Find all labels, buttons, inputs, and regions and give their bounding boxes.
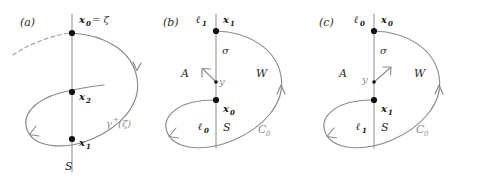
panel-b-label-A: A <box>180 67 189 80</box>
panel-c-label-S: S <box>381 121 389 134</box>
panel-a-label-x0-sub: 0 <box>86 19 91 28</box>
panel-a-label-x2: x <box>78 91 86 102</box>
panel-b-label-x1-sub: 1 <box>230 19 235 28</box>
panel-c-node-x0 <box>371 28 377 34</box>
panel-a-tag: (a) <box>20 16 35 29</box>
panel-c-label-ell0-sub: 0 <box>360 19 365 28</box>
panel-a-label-orbit: γ <box>106 118 112 129</box>
panel-a-node-x2 <box>69 89 75 95</box>
panel-a-node-x0 <box>69 30 75 36</box>
panel-b-node-x1 <box>213 28 219 34</box>
panel-a-label-orbit-arg: (ζ) <box>118 118 131 129</box>
panel-c-label-x1: x <box>380 103 388 114</box>
panel-a-label-x1: x <box>78 137 86 148</box>
panel-c: (c) ℓ 0 x 0 σ A y W x 1 ℓ 1 S C <box>319 14 443 148</box>
panel-a-arrowhead-left <box>30 126 40 136</box>
panel-b-vector-y <box>203 69 216 82</box>
panel-b-label-ell1-sub: 1 <box>202 19 207 28</box>
panel-c-label-W: W <box>414 67 427 80</box>
panel-c-label-C0-sub: 0 <box>424 130 429 138</box>
panel-c-tag: (c) <box>319 16 334 29</box>
panel-b-arrowhead-left <box>169 128 179 138</box>
panel-a-label-x0-eq: = ζ <box>92 14 110 25</box>
panel-c-label-sigma: σ <box>380 45 388 56</box>
panel-b-label-W: W <box>256 67 269 80</box>
panel-b-node-x0 <box>213 97 219 103</box>
panel-c-label-x1-sub: 1 <box>388 108 393 117</box>
panel-a-label-x1-sub: 1 <box>86 142 91 151</box>
panel-b-label-y: y <box>218 76 225 87</box>
panel-b-label-sigma: σ <box>222 45 230 56</box>
panel-a-node-x1 <box>69 136 75 142</box>
panel-a-label-x2-sub: 2 <box>85 96 91 105</box>
panel-c-node-x1 <box>371 97 377 103</box>
panel-b-label-C0-sub: 0 <box>266 130 271 138</box>
panel-b-label-ell0: ℓ <box>198 121 202 132</box>
panel-c-label-y: y <box>361 74 368 85</box>
panel-b-label-x0: x <box>222 103 230 114</box>
panel-b-tag: (b) <box>163 16 179 29</box>
panel-c-label-ell0: ℓ <box>354 14 358 25</box>
panel-a: (a) x 0 = ζ x 2 x 1 S γ + (ζ) <box>13 14 141 173</box>
panel-c-label-x0: x <box>380 14 388 25</box>
panel-b: (b) ℓ 1 x 1 σ A y W x 0 ℓ 0 S C <box>163 14 285 148</box>
panel-c-vector-y <box>374 68 390 82</box>
panel-b-vector-basepoint <box>214 80 218 84</box>
panel-b-label-ell1: ℓ <box>196 14 200 25</box>
panel-a-dashed-curve <box>13 33 70 55</box>
panel-a-label-x0: x <box>78 14 86 25</box>
panel-b-label-ell0-sub: 0 <box>204 126 209 135</box>
panel-c-label-ell1-sub: 1 <box>362 126 367 135</box>
panel-b-label-S: S <box>223 121 231 134</box>
panel-c-label-A: A <box>338 67 347 80</box>
panel-b-label-x0-sub: 0 <box>230 108 235 117</box>
figure-container: (a) x 0 = ζ x 2 x 1 S γ + (ζ) <box>0 0 479 180</box>
panel-b-label-x1: x <box>222 14 230 25</box>
panel-c-label-x0-sub: 0 <box>388 19 393 28</box>
panel-c-arrowhead-left <box>327 128 337 138</box>
panel-c-label-ell1: ℓ <box>356 121 360 132</box>
panel-a-label-S: S <box>65 160 73 173</box>
panel-c-vector-basepoint <box>372 80 376 84</box>
